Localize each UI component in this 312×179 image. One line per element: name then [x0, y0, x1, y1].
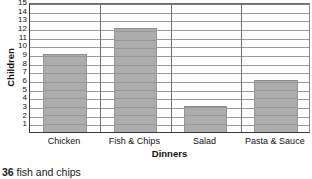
y-tick-label: 1 — [13, 120, 27, 128]
gridline — [30, 47, 309, 48]
y-tick-label: 11 — [13, 34, 27, 42]
y-tick-label: 3 — [13, 103, 27, 111]
y-tick-label: 10 — [13, 42, 27, 50]
category-separator — [100, 4, 101, 132]
gridline — [30, 13, 309, 14]
y-tick-label: 7 — [13, 68, 27, 76]
bar-chart-figure: Children 123456789101112131415 ChickenFi… — [0, 0, 312, 179]
y-tick-label: 2 — [13, 112, 27, 120]
x-axis-title: Dinners — [29, 148, 310, 159]
gridline — [30, 21, 309, 22]
gridline — [30, 39, 309, 40]
bar — [114, 28, 158, 132]
y-tick-label: 8 — [13, 60, 27, 68]
x-tick-label: Chicken — [29, 135, 99, 147]
x-axis-tick-labels: ChickenFish & ChipsSaladPasta & Sauce — [29, 135, 310, 148]
gridline — [30, 4, 309, 5]
x-tick-label: Salad — [170, 135, 240, 147]
y-tick-label: 4 — [13, 94, 27, 102]
y-tick-label: 5 — [13, 86, 27, 94]
caption-label: fish and chips — [17, 166, 81, 178]
gridline — [30, 30, 309, 31]
x-tick-label: Pasta & Sauce — [240, 135, 310, 147]
x-tick-label: Fish & Chips — [99, 135, 169, 147]
y-tick-label: 15 — [13, 0, 27, 7]
plot-area — [29, 3, 310, 133]
bar — [254, 80, 298, 132]
bar — [43, 54, 87, 132]
category-separator — [171, 4, 172, 132]
bar — [184, 106, 228, 132]
y-tick-label: 9 — [13, 51, 27, 59]
y-axis-tick-labels: 123456789101112131415 — [13, 2, 27, 133]
y-tick-label: 13 — [13, 16, 27, 24]
caption-text: 36 fish and chips — [2, 166, 81, 179]
y-tick-label: 12 — [13, 25, 27, 33]
y-tick-label: 14 — [13, 8, 27, 16]
category-separator — [241, 4, 242, 132]
y-tick-label: 6 — [13, 77, 27, 85]
caption-number: 36 — [2, 166, 14, 178]
